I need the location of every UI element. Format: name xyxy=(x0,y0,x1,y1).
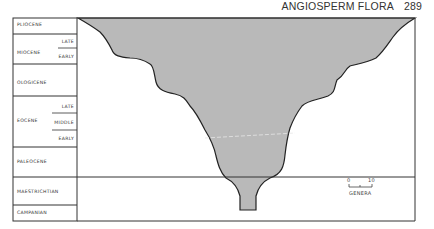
label-oligocene: OLOGICENE xyxy=(17,80,47,85)
label-miocene-early: EARLY xyxy=(59,54,75,59)
label-maestrichtian: MAESTRICHTIAN xyxy=(17,189,59,194)
label-pliocene: PLIOCENE xyxy=(17,22,42,27)
label-miocene: MIOCENE xyxy=(17,50,40,55)
genera-diversity-spindle xyxy=(78,18,415,210)
label-eocene-middle: MIDDLE xyxy=(54,120,74,125)
label-paleocene: PALEOCENE xyxy=(17,159,47,164)
scale-bar xyxy=(349,184,372,187)
scale-unit-label: GENERA xyxy=(349,190,371,196)
scale-max-label: 10 xyxy=(368,177,375,183)
label-campanian: CAMPANIAN xyxy=(17,210,47,215)
label-miocene-late: LATE xyxy=(62,39,74,44)
label-eocene-late: LATE xyxy=(62,104,74,109)
label-eocene-early: EARLY xyxy=(59,136,75,141)
label-eocene: EOCENE xyxy=(17,118,38,123)
scale-min-label: 0 xyxy=(347,177,350,183)
